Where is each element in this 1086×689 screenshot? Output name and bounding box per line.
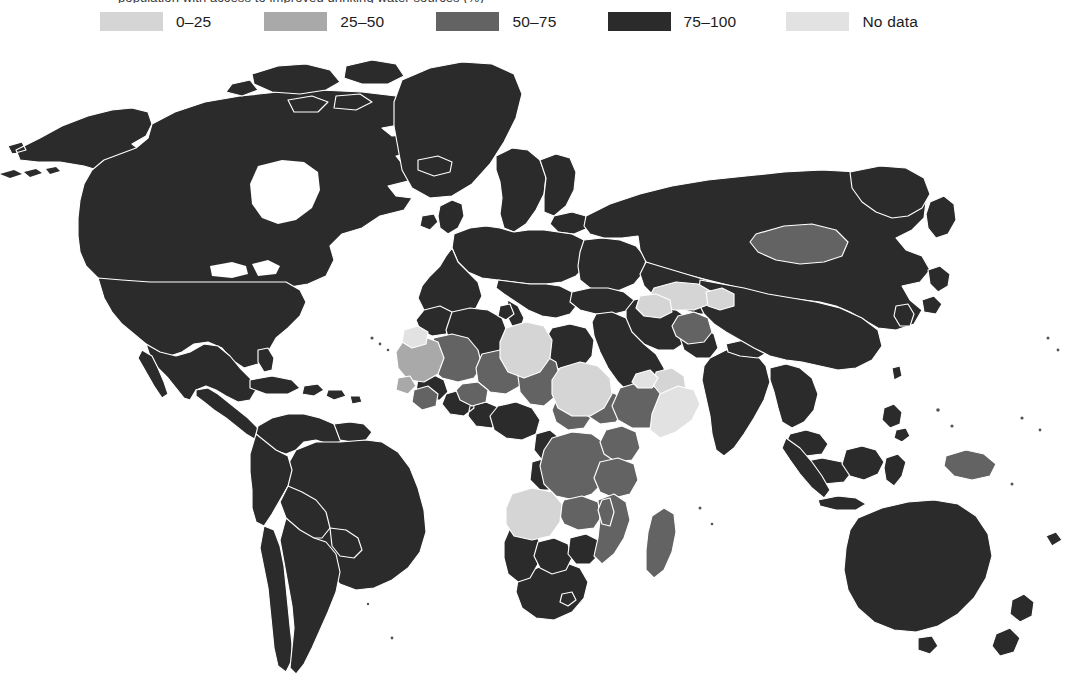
legend-label-25-50: 25–50 xyxy=(340,12,384,31)
legend-swatch-25-50 xyxy=(264,12,327,31)
country-nigeria[interactable] xyxy=(490,402,540,440)
country-tanzania[interactable] xyxy=(594,458,638,498)
country-australia[interactable] xyxy=(844,500,992,632)
world-map-svg[interactable] xyxy=(0,38,1086,689)
country-sudan[interactable] xyxy=(552,362,612,416)
legend-label-0-25: 0–25 xyxy=(176,12,211,31)
country-papua-new-guinea[interactable] xyxy=(944,450,996,480)
legend-swatch-no-data xyxy=(786,12,849,31)
country-zambia[interactable] xyxy=(558,496,602,530)
region-scandinavia[interactable] xyxy=(496,148,546,232)
country-guyanas[interactable] xyxy=(334,422,372,442)
map-legend: 0–25 25–50 50–75 75–100 No data xyxy=(0,6,1086,36)
country-western-sahara[interactable] xyxy=(402,326,428,348)
figure-title-text: population with access to improved drink… xyxy=(118,0,978,3)
legend-swatch-75-100 xyxy=(608,12,671,31)
legend-swatch-50-75 xyxy=(436,12,499,31)
island-tasmania xyxy=(918,636,938,654)
region-western-europe[interactable] xyxy=(452,226,590,284)
choropleth-figure: population with access to improved drink… xyxy=(0,0,1086,689)
region-south-america[interactable] xyxy=(250,414,426,674)
country-taiwan xyxy=(892,366,902,380)
region-kamchatka[interactable] xyxy=(926,196,956,238)
country-angola[interactable] xyxy=(506,488,562,540)
country-kyrgyz-tajik xyxy=(706,288,734,310)
legend-item-50-75[interactable]: 50–75 xyxy=(436,6,556,36)
legend-label-no-data: No data xyxy=(862,12,918,31)
country-turkey[interactable] xyxy=(570,288,634,314)
country-india[interactable] xyxy=(702,348,770,456)
legend-item-75-100[interactable]: 75–100 xyxy=(608,6,737,36)
region-indochina[interactable] xyxy=(770,364,818,428)
region-eastern-europe[interactable] xyxy=(578,238,646,292)
legend-label-75-100: 75–100 xyxy=(684,12,737,31)
region-caribbean[interactable] xyxy=(250,376,362,404)
legend-swatch-0-25 xyxy=(100,12,163,31)
country-finland[interactable] xyxy=(540,154,576,216)
legend-item-0-25[interactable]: 0–25 xyxy=(100,6,211,36)
country-uk-ireland[interactable] xyxy=(420,200,464,234)
aleutian-islands xyxy=(0,167,60,178)
legend-item-no-data[interactable]: No data xyxy=(786,6,918,36)
legend-label-50-75: 50–75 xyxy=(512,12,556,31)
world-map-area xyxy=(0,38,1086,689)
figure-title-sliver: population with access to improved drink… xyxy=(118,0,978,3)
country-madagascar[interactable] xyxy=(646,508,676,578)
legend-item-25-50[interactable]: 25–50 xyxy=(264,6,384,36)
island-borneo-sulawesi[interactable] xyxy=(842,446,906,486)
country-new-zealand[interactable] xyxy=(992,594,1034,656)
island-philippines[interactable] xyxy=(882,404,910,442)
island-fiji-pacific xyxy=(1046,532,1062,546)
region-baltics[interactable] xyxy=(550,212,588,234)
island-java[interactable] xyxy=(818,496,866,510)
region-florida xyxy=(258,348,274,372)
region-oceania[interactable] xyxy=(782,404,1062,656)
